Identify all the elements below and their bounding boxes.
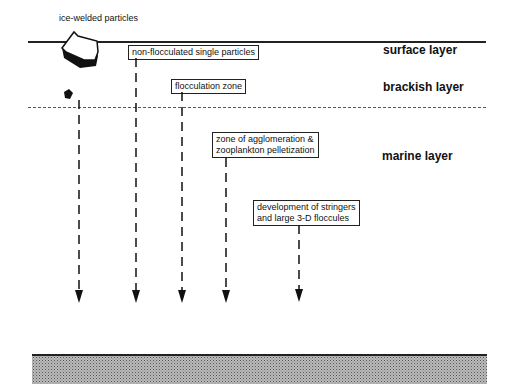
particle-icon [64, 89, 73, 99]
arrowhead-icon [222, 290, 230, 303]
seafloor-sediment [32, 354, 487, 384]
arrowhead-icon [132, 290, 140, 303]
flux-arrows [79, 58, 299, 292]
arrowhead-icon [75, 290, 83, 303]
arrowhead-icon [178, 290, 186, 303]
ice-floe-icon [62, 32, 98, 68]
arrowheads [75, 289, 303, 303]
arrowhead-icon [295, 289, 303, 302]
